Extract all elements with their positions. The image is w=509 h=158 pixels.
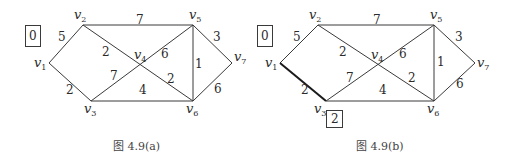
weight-label: 7 — [373, 13, 381, 27]
weight-label: 3 — [455, 30, 463, 44]
weight-label: 2 — [167, 72, 175, 86]
weight-label: 4 — [139, 83, 147, 97]
weight-label: 1 — [437, 55, 445, 69]
figure-caption-a: 图 4.9(a) — [113, 140, 160, 153]
graph-diagram-canvas: 5 2 7 2 7 6 2 4 1 3 6 v1 v2 v3 v4 v5 v6 … — [0, 0, 509, 158]
distance-label-value: 0 — [261, 29, 269, 43]
weight-label: 1 — [195, 57, 203, 71]
vertex-v6: v6 — [427, 101, 439, 118]
vertex-v3: v3 — [314, 101, 326, 118]
vertex-v5: v5 — [189, 7, 201, 24]
figure-a: 5 2 7 2 7 6 2 4 1 3 6 v1 v2 v3 v4 v5 v6 … — [26, 7, 247, 153]
edge-v2-v6 — [83, 25, 193, 101]
weight-label: 2 — [339, 45, 347, 59]
weight-label: 2 — [408, 71, 416, 85]
weight-label: 5 — [293, 30, 301, 44]
vertex-v4: v4 — [134, 47, 146, 64]
figure-b: 5 2 7 2 7 6 2 4 1 3 6 v1 v2 v3 v4 v5 v6 … — [258, 7, 490, 153]
vertex-v7: v7 — [234, 49, 246, 66]
vertex-v2: v2 — [74, 7, 86, 24]
weight-label: 6 — [399, 47, 407, 61]
distance-label-value: 2 — [331, 112, 339, 126]
distance-label-box-v3: 2 — [327, 111, 343, 128]
weight-label: 7 — [110, 69, 118, 83]
weight-label: 3 — [213, 30, 221, 44]
weight-label: 5 — [58, 30, 66, 44]
vertex-v2: v2 — [309, 7, 321, 24]
weight-label: 2 — [66, 83, 74, 97]
edge-v1-v2 — [49, 25, 83, 63]
weight-label: 6 — [456, 77, 464, 91]
distance-label-box-v1: 0 — [258, 26, 273, 47]
vertex-v3: v3 — [84, 101, 96, 118]
weight-label: 2 — [102, 45, 110, 59]
vertex-v4: v4 — [371, 47, 383, 64]
vertex-v1: v1 — [34, 55, 46, 72]
weight-label: 7 — [136, 13, 144, 27]
edge-v2-v6 — [318, 25, 434, 101]
vertex-v6: v6 — [186, 101, 198, 118]
weight-label: 6 — [161, 47, 169, 61]
vertex-v1: v1 — [265, 55, 277, 72]
weight-label: 4 — [379, 83, 387, 97]
distance-label-box: 0 — [26, 26, 41, 47]
weight-label: 6 — [214, 82, 222, 96]
vertex-v5: v5 — [430, 7, 442, 24]
weight-label: 2 — [301, 83, 309, 97]
distance-label-value: 0 — [29, 29, 37, 43]
figure-caption-b: 图 4.9(b) — [356, 140, 404, 153]
weight-label: 7 — [346, 71, 354, 85]
vertex-v7: v7 — [477, 55, 489, 72]
